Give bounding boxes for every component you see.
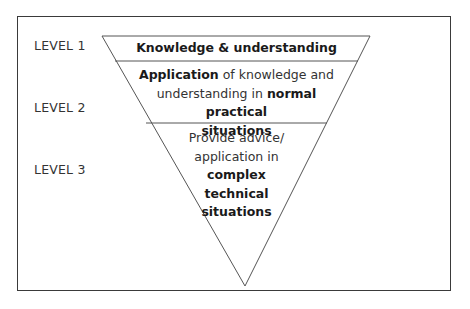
tier-1-bold: Knowledge & understanding — [136, 40, 337, 55]
tier-3-bold-technical: technical — [204, 186, 268, 201]
tier-3-text: Provide advice/ application in complex t… — [160, 129, 313, 222]
tier-3-normal-1: Provide advice/ — [189, 130, 285, 145]
level-2-label: LEVEL 2 — [34, 100, 86, 115]
tier-2-normal-2: understanding in — [157, 86, 267, 101]
tier-2-normal-1: of knowledge and — [219, 67, 334, 82]
tier-3-normal-2: application in — [194, 149, 278, 164]
level-1-label: LEVEL 1 — [34, 38, 86, 53]
level-3-label: LEVEL 3 — [34, 162, 86, 177]
tier-3-bold-complex: complex — [207, 167, 266, 182]
tier-3-bold-situations: situations — [201, 204, 271, 219]
tier-1-text: Knowledge & understanding — [115, 39, 358, 58]
tier-2-bold-application: Application — [139, 67, 219, 82]
